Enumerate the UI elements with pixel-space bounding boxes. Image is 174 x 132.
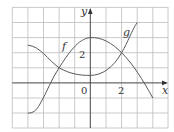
y-axis-label: y xyxy=(80,5,88,18)
x-axis-label: x xyxy=(162,84,169,97)
origin-label: 0 xyxy=(81,85,87,96)
x-tick-label-2: 2 xyxy=(118,85,124,96)
curve-g-label: g xyxy=(123,26,130,39)
function-graph: y x 0 2 2 f g xyxy=(0,0,174,132)
curve-f-label: f xyxy=(61,40,68,53)
y-axis-arrow-icon xyxy=(88,8,93,14)
y-tick-label-2: 2 xyxy=(79,49,85,60)
